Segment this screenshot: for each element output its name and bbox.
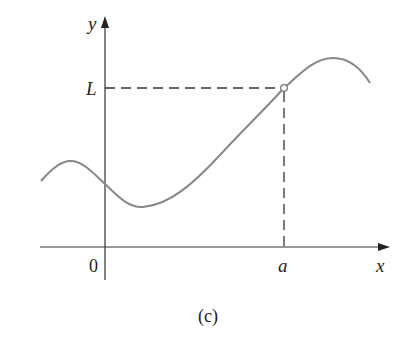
y-axis-arrow-icon: [101, 16, 109, 28]
open-circle-hole: [281, 85, 288, 92]
limit-diagram: y L 0 a x (c): [0, 0, 397, 347]
y-axis-label: y: [86, 13, 97, 34]
limit-label: L: [85, 78, 97, 99]
a-label: a: [278, 255, 288, 276]
x-axis-label: x: [375, 255, 385, 276]
origin-label: 0: [89, 256, 98, 276]
x-axis-arrow-icon: [378, 243, 390, 251]
figure-caption: (c): [198, 306, 218, 327]
